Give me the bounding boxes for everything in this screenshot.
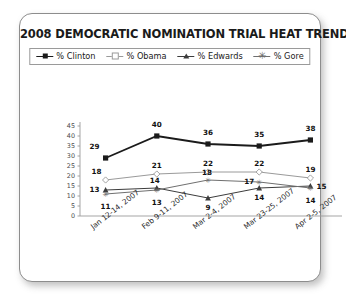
legend-entry[interactable]: % Clinton (36, 51, 95, 61)
data-point-label: 35 (254, 130, 264, 139)
svg-text:✳: ✳ (205, 176, 211, 185)
legend-label: % Clinton (56, 51, 95, 61)
data-point-label: 18 (202, 168, 212, 177)
data-point-label: 9 (205, 203, 210, 212)
svg-text:✳: ✳ (307, 184, 313, 193)
filled-square-icon (36, 52, 53, 61)
series-obama (103, 169, 314, 183)
data-point-label: 38 (305, 124, 315, 133)
data-point-label: 14 (305, 196, 315, 205)
x-axis-tick-label: Mar 23-25, 2007 (242, 186, 296, 231)
svg-text:✳: ✳ (154, 186, 160, 195)
x-axis-tick-label: Jan 12-14, 2007 (89, 188, 141, 231)
svg-text:✳: ✳ (256, 178, 262, 187)
y-axis-tick-label: 20 (61, 172, 75, 180)
legend-label: % Edwards (198, 51, 243, 61)
data-point-label: 36 (203, 128, 213, 137)
x-axis-tick-label: Feb 9-11, 2007 (140, 190, 189, 231)
y-axis-tick-label: 15 (61, 182, 75, 190)
page-title: 2008 DEMOCRATIC NOMINATION TRIAL HEAT TR… (20, 27, 320, 41)
svg-text:✳: ✳ (102, 190, 108, 199)
data-point-label: 15 (316, 182, 326, 191)
chart-card: 2008 DEMOCRATIC NOMINATION TRIAL HEAT TR… (19, 13, 321, 282)
y-axis-tick-label: 0 (61, 212, 75, 220)
data-point-label: 13 (90, 185, 100, 194)
series-clinton (103, 133, 313, 160)
data-point-label: 29 (90, 142, 100, 151)
series-gore: ✳✳✳✳✳ (102, 176, 313, 199)
data-point-label: 14 (254, 193, 264, 202)
data-point-label: 13 (152, 198, 162, 207)
chart-legend: % Clinton% Obama% Edwards✳% Gore (29, 48, 310, 65)
legend-label: % Obama (127, 51, 167, 61)
screenshot-root: 2008 DEMOCRATIC NOMINATION TRIAL HEAT TR… (0, 0, 346, 307)
filled-triangle-icon (178, 52, 195, 61)
legend-entry[interactable]: % Obama (107, 51, 167, 61)
y-axis-tick-label: 45 (61, 122, 75, 130)
x-axis-tick-label: Apr 2-5, 2007 (293, 193, 339, 231)
legend-entry[interactable]: ✳% Gore (254, 51, 304, 61)
axes (78, 122, 343, 216)
y-axis-tick-label: 30 (61, 152, 75, 160)
data-point-label: 11 (101, 202, 111, 211)
x-axis-tick-label: Mar 2-4, 2007 (191, 192, 237, 231)
y-axis-tick-label: 10 (61, 192, 75, 200)
data-point-label: 21 (152, 161, 162, 170)
legend-entry[interactable]: % Edwards (178, 51, 243, 61)
y-axis-tick-label: 35 (61, 142, 75, 150)
data-point-label: 17 (244, 177, 254, 186)
y-axis-tick-label: 25 (61, 162, 75, 170)
data-point-label: 19 (305, 165, 315, 174)
open-diamond-icon (107, 52, 124, 61)
y-axis-tick-label: 40 (61, 132, 75, 140)
data-point-label: 14 (150, 176, 160, 185)
data-point-label: 40 (152, 120, 162, 129)
data-point-label: 18 (92, 167, 102, 176)
data-point-label: 22 (203, 159, 213, 168)
y-axis-tick-label: 5 (61, 202, 75, 210)
asterisk-star-icon: ✳ (254, 52, 271, 61)
legend-label: % Gore (274, 51, 304, 61)
series-edwards (103, 183, 314, 200)
data-point-label: 22 (254, 159, 264, 168)
